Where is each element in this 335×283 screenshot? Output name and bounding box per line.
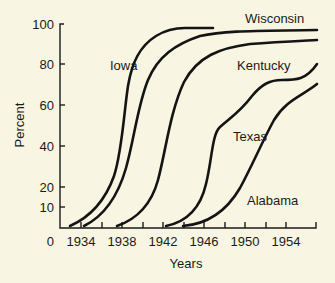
label-texas: Texas bbox=[233, 129, 267, 144]
chart: 100 80 60 40 20 10 0 1934 1938 1942 1946… bbox=[0, 0, 335, 283]
x-tick-1934: 1934 bbox=[67, 234, 96, 249]
y-tick-40: 40 bbox=[40, 139, 54, 154]
y-axis-title: Percent bbox=[12, 102, 27, 147]
label-kentucky: Kentucky bbox=[237, 58, 291, 73]
x-axis-title: Years bbox=[170, 256, 203, 271]
label-alabama: Alabama bbox=[247, 193, 299, 208]
x-tick-1938: 1938 bbox=[108, 234, 137, 249]
y-tick-10: 10 bbox=[40, 200, 54, 215]
curve-iowa bbox=[70, 28, 213, 226]
y-tick-80: 80 bbox=[40, 57, 54, 72]
y-axis-ticks bbox=[60, 64, 65, 207]
x-tick-1946: 1946 bbox=[190, 234, 219, 249]
label-wisconsin: Wisconsin bbox=[245, 11, 304, 26]
y-tick-100: 100 bbox=[32, 17, 54, 32]
x-tick-1954: 1954 bbox=[272, 234, 301, 249]
x-tick-1950: 1950 bbox=[231, 234, 260, 249]
y-tick-0: 0 bbox=[47, 234, 54, 249]
y-tick-60: 60 bbox=[40, 98, 54, 113]
label-iowa: Iowa bbox=[110, 58, 138, 73]
x-tick-1942: 1942 bbox=[149, 234, 178, 249]
y-tick-20: 20 bbox=[40, 180, 54, 195]
